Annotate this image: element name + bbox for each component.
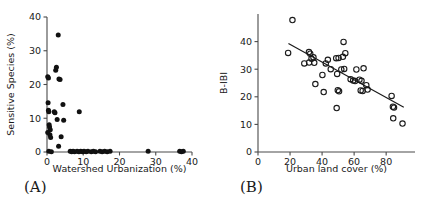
x-tick-label: 40 — [186, 156, 198, 167]
y-tick-label: 0 — [35, 146, 41, 157]
data-point — [313, 81, 318, 86]
panel-label: (B) — [240, 178, 263, 196]
data-point — [58, 77, 63, 82]
data-point — [59, 134, 64, 139]
y-axis-title: Sensitive Species (%) — [5, 33, 16, 135]
y-tick-label: 10 — [29, 113, 41, 124]
panel-b: 010203040020406080Urban land cover (%)B-… — [215, 0, 429, 201]
data-point — [181, 149, 186, 154]
data-point — [46, 108, 51, 113]
data-point — [290, 17, 295, 22]
panel-a-plot: 010203040010203040Watershed Urbanization… — [0, 0, 215, 201]
data-point — [389, 93, 394, 98]
x-tick-label: 0 — [44, 156, 50, 167]
data-point — [54, 65, 59, 70]
y-tick-label: 10 — [240, 119, 252, 130]
regression-line — [288, 44, 403, 108]
data-point — [46, 76, 51, 81]
data-point — [108, 149, 113, 154]
y-tick-label: 0 — [246, 146, 252, 157]
data-point — [391, 116, 396, 121]
panel-label: (A) — [24, 178, 47, 196]
data-point — [334, 105, 339, 110]
y-tick-label: 20 — [240, 91, 252, 102]
data-point — [285, 50, 290, 55]
data-point — [400, 121, 405, 126]
data-point — [336, 89, 341, 94]
data-point — [77, 109, 82, 114]
data-point — [321, 89, 326, 94]
y-tick-label: 40 — [240, 36, 252, 47]
x-axis-title: Watershed Urbanization (%) — [53, 163, 187, 174]
data-point — [146, 149, 151, 154]
figure-container: 010203040010203040Watershed Urbanization… — [0, 0, 429, 201]
data-point — [55, 117, 60, 122]
data-point — [45, 130, 50, 135]
y-tick-label: 30 — [29, 45, 41, 56]
data-point — [341, 39, 346, 44]
data-point — [93, 149, 98, 154]
y-axis-title: B-IBI — [218, 72, 229, 94]
data-point — [48, 135, 53, 140]
panel-b-plot: 010203040020406080Urban land cover (%)B-… — [215, 0, 429, 201]
x-tick-label: 0 — [255, 156, 261, 167]
data-point — [49, 149, 54, 154]
y-tick-label: 30 — [240, 64, 252, 75]
data-point — [56, 32, 61, 37]
data-point — [361, 66, 366, 71]
data-point — [46, 100, 51, 105]
data-point — [354, 67, 359, 72]
data-point — [56, 144, 61, 149]
x-axis-title: Urban land cover (%) — [286, 163, 387, 174]
data-point — [52, 109, 57, 114]
y-tick-label: 20 — [29, 79, 41, 90]
panel-a: 010203040010203040Watershed Urbanization… — [0, 0, 215, 201]
data-point — [334, 71, 339, 76]
data-point — [61, 118, 66, 123]
y-tick-label: 40 — [29, 11, 41, 22]
data-point — [60, 102, 65, 107]
data-point — [320, 72, 325, 77]
